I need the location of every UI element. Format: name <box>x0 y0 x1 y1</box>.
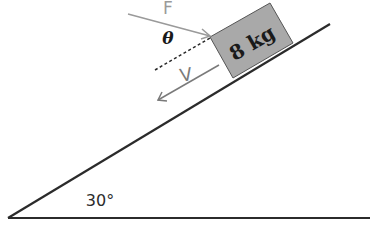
force-label: F <box>163 0 173 18</box>
inclined-plane-diagram: 8 kg F θ V 30° <box>0 0 372 246</box>
theta-label: θ <box>162 28 174 48</box>
velocity-label: V <box>178 63 194 86</box>
incline-line <box>8 24 330 218</box>
velocity-arrowhead-icon <box>158 92 167 101</box>
incline-angle-label: 30° <box>86 191 114 210</box>
